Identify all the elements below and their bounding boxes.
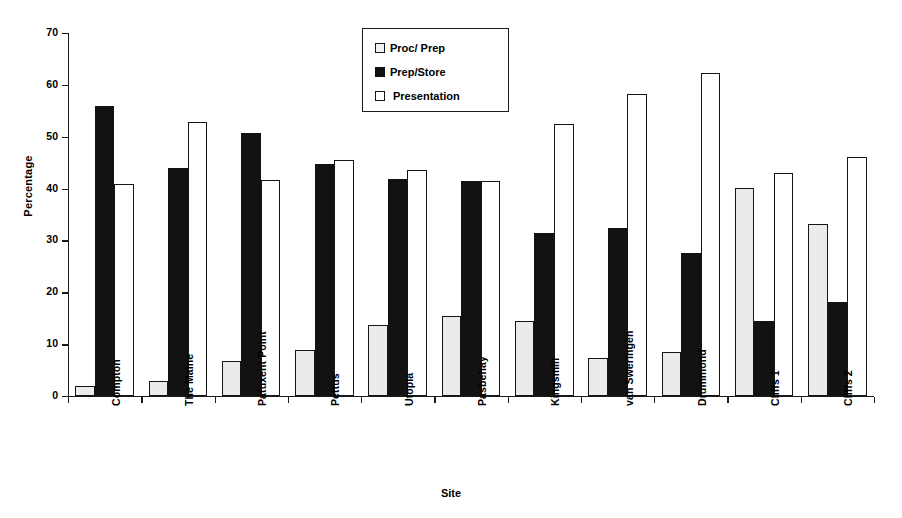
bar-group xyxy=(588,33,647,396)
x-axis-category-label: The Maine xyxy=(183,354,195,406)
y-axis-tick-label: 50 xyxy=(22,130,58,142)
x-axis-tick xyxy=(654,397,655,403)
y-axis-tick-label: 40 xyxy=(22,182,58,194)
bar xyxy=(847,157,867,396)
bar-group xyxy=(295,33,354,396)
x-axis-tick xyxy=(874,397,875,403)
bar-group xyxy=(662,33,721,396)
chart-legend: Proc/ PrepPrep/StorePresentation xyxy=(362,28,509,112)
bar xyxy=(368,325,388,396)
bar-group xyxy=(808,33,867,396)
legend-swatch-icon xyxy=(375,67,385,77)
y-axis-tick-label: 70 xyxy=(22,26,58,38)
bar xyxy=(149,381,169,396)
legend-item-label: Prep/Store xyxy=(390,66,446,78)
x-axis-tick xyxy=(581,397,582,403)
bar xyxy=(808,224,828,396)
bar-group xyxy=(75,33,134,396)
y-axis-tick-label: 60 xyxy=(22,78,58,90)
bar xyxy=(407,170,427,396)
x-axis-tick xyxy=(215,397,216,403)
bar xyxy=(588,358,608,396)
bar xyxy=(515,321,535,396)
bar xyxy=(95,106,115,396)
x-axis-title: Site xyxy=(0,487,902,499)
bar xyxy=(388,179,408,396)
x-axis-tick xyxy=(361,397,362,403)
bar xyxy=(334,160,354,396)
bar xyxy=(554,124,574,396)
bar xyxy=(442,316,462,396)
x-axis-category-label: Cliffs 1 xyxy=(769,370,781,406)
bar-group xyxy=(149,33,208,396)
legend-swatch-icon xyxy=(375,91,385,101)
bar xyxy=(222,361,242,396)
y-axis-tick-label: 0 xyxy=(22,389,58,401)
x-axis-category-label: Compton xyxy=(110,359,122,406)
bar xyxy=(701,73,721,396)
y-axis-tick-label: 20 xyxy=(22,285,58,297)
x-axis-category-label: Patuxent Point xyxy=(256,331,268,406)
y-axis-tick-label: 30 xyxy=(22,233,58,245)
x-axis-category-label: Drummond xyxy=(696,349,708,406)
legend-item-label: Presentation xyxy=(393,90,460,102)
x-axis-tick xyxy=(141,397,142,403)
x-axis-category-label: Cliffs 2 xyxy=(842,370,854,406)
x-axis-tick xyxy=(508,397,509,403)
x-axis-category-label: van Sweringen xyxy=(623,331,635,406)
bar xyxy=(774,173,794,397)
legend-item: Prep/Store xyxy=(375,60,508,84)
x-axis-category-label: Utopia xyxy=(403,373,415,406)
bar-group xyxy=(222,33,281,396)
y-axis-tick-label: 10 xyxy=(22,337,58,349)
x-axis-tick xyxy=(727,397,728,403)
x-axis-tick xyxy=(434,397,435,403)
bar-group xyxy=(735,33,794,396)
legend-item: Presentation xyxy=(375,84,508,108)
bar-chart: Percentage 010203040506070 ComptonThe Ma… xyxy=(0,0,902,518)
bar xyxy=(295,350,315,396)
bar xyxy=(315,164,335,396)
x-axis-category-label: Pasbehay xyxy=(476,356,488,406)
x-axis-tick xyxy=(801,397,802,403)
bar xyxy=(662,352,682,396)
x-axis-tick xyxy=(288,397,289,403)
x-axis-category-label: Kingsmill xyxy=(549,358,561,406)
bar-group xyxy=(515,33,574,396)
legend-item-label: Proc/ Prep xyxy=(390,42,445,54)
legend-swatch-icon xyxy=(375,43,385,53)
bar xyxy=(75,386,95,396)
x-axis-category-label: Pettus xyxy=(329,373,341,406)
x-axis-tick xyxy=(68,397,69,403)
bar xyxy=(735,188,755,396)
legend-item: Proc/ Prep xyxy=(375,36,508,60)
